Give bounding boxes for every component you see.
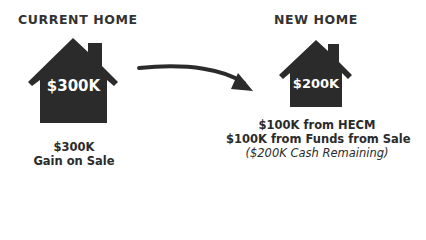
sale-funds-source: Funds from Sale bbox=[305, 132, 410, 146]
sale-funds-amount: $100K from bbox=[226, 132, 305, 146]
new-home-caption-line1: $100K from HECM bbox=[226, 118, 408, 132]
new-house-value: $200K bbox=[288, 76, 344, 91]
hecm-amount: $100K from bbox=[259, 118, 338, 132]
hecm-source: HECM bbox=[338, 118, 375, 132]
cash-remaining-note: ($200K Cash Remaining) bbox=[226, 146, 408, 160]
new-home-caption-line2: $100K from Funds from Sale bbox=[226, 132, 408, 146]
new-home-caption: $100K from HECM $100K from Funds from Sa… bbox=[226, 118, 408, 160]
